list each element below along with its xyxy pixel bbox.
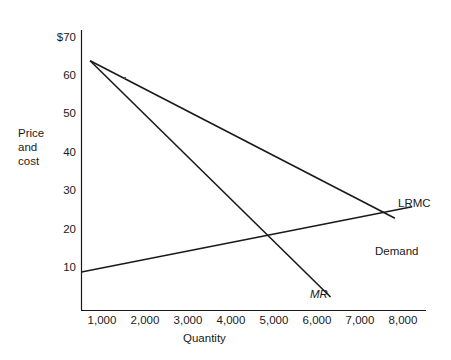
- lrmc-label: LRMC: [398, 197, 431, 210]
- plot-area: [0, 0, 451, 360]
- x-tick-5000: 5,000: [252, 314, 296, 327]
- x-tick-8000: 8,000: [381, 314, 425, 327]
- y-tick-70: $70: [40, 31, 76, 44]
- y-tick-60: 60: [40, 69, 76, 82]
- x-tick-3000: 3,000: [166, 314, 210, 327]
- y-axis-title-line1: Price: [18, 127, 44, 141]
- y-tick-50: 50: [40, 107, 76, 120]
- x-axis-title: Quantity: [183, 332, 226, 345]
- x-tick-6000: 6,000: [295, 314, 339, 327]
- mr-curve: [90, 61, 330, 297]
- lrmc-curve: [82, 207, 413, 272]
- y-tick-20: 20: [40, 223, 76, 236]
- y-axis-title-line2: and: [18, 141, 37, 155]
- demand-label: Demand: [375, 245, 418, 258]
- y-tick-10: 10: [40, 261, 76, 274]
- x-tick-7000: 7,000: [338, 314, 382, 327]
- x-tick-2000: 2,000: [123, 314, 167, 327]
- y-tick-30: 30: [40, 184, 76, 197]
- y-axis-title-line3: cost: [18, 155, 39, 169]
- x-tick-4000: 4,000: [209, 314, 253, 327]
- chart-figure: $70 60 50 40 30 20 10 Price and cost 1,0…: [0, 0, 451, 360]
- x-tick-1000: 1,000: [80, 314, 124, 327]
- mr-label: MR: [310, 288, 328, 301]
- scan-artifact-dot: [124, 77, 126, 79]
- y-tick-40: 40: [40, 146, 76, 159]
- demand-curve: [90, 61, 395, 219]
